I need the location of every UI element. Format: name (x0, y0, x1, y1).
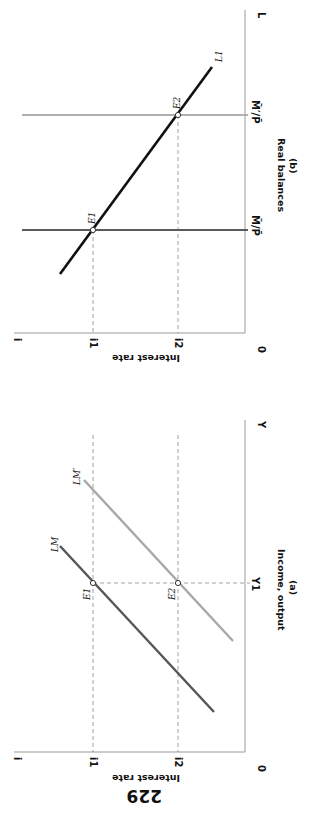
panel-b: E1 E2 L1 L M̄′/P̄ M̄/P̄ Real balances (b… (12, 10, 299, 364)
panel-b-origin: 0 (256, 346, 267, 353)
rotated-figure: E1 E2 L1 L M̄′/P̄ M̄/P̄ Real balances (b… (0, 0, 314, 814)
panel-b-e2-label: E2 (172, 96, 182, 110)
panel-a: E1 E2 LM LM′ Y Y1 Income, output (a) 0 i… (12, 420, 299, 784)
panel-b-tick-i2: i2 (173, 338, 184, 348)
panel-b-axis-end-i: i (12, 338, 23, 341)
l1-curve-label: L1 (214, 50, 224, 63)
panel-b-tick-i1: i1 (88, 338, 99, 348)
panel-a-axis-end-y: Y (256, 420, 267, 429)
panel-a-tick-i1: i1 (88, 757, 99, 767)
panel-b-y-title: Interest rate (112, 353, 180, 364)
panel-b-axis-end-l: L (256, 12, 267, 19)
panel-b-e1-point (90, 227, 95, 232)
panel-b-tick-mp-prime: M̄′/P̄ (250, 100, 262, 124)
panel-a-tick-y1: Y1 (250, 576, 261, 591)
lm-curve (60, 546, 214, 712)
panel-a-tick-i2: i2 (173, 757, 184, 767)
page-number: 229 (127, 786, 163, 806)
lm-prime-curve-label: LM′ (72, 468, 82, 486)
panel-a-origin: 0 (256, 765, 267, 772)
panel-b-tick-mp: M̄/P̄ (250, 215, 262, 236)
panel-a-y-title: Interest rate (112, 773, 180, 784)
panel-a-e2-point (175, 580, 180, 585)
panel-a-e1-label: E1 (82, 588, 92, 601)
panel-a-axis-end-i: i (12, 757, 23, 760)
panel-a-label: (a) (288, 580, 299, 595)
lm-prime-curve (84, 480, 233, 641)
panel-b-x-title: Real balances (276, 138, 287, 212)
panel-b-e1-label: E1 (87, 212, 97, 225)
panel-b-label: (b) (288, 158, 299, 173)
panel-a-e2-label: E2 (167, 587, 177, 601)
panel-a-x-title: Income, output (276, 549, 287, 631)
panel-a-e1-point (90, 580, 95, 585)
panel-b-e2-point (175, 112, 180, 117)
l1-curve (60, 67, 212, 274)
lm-curve-label: LM (50, 536, 60, 553)
